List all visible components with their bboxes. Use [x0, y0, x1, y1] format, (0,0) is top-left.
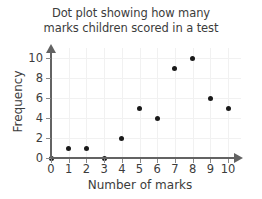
gridline-vertical — [175, 48, 176, 160]
data-point — [155, 116, 160, 121]
gridline-vertical — [157, 48, 158, 160]
dot-plot-figure: Dot plot showing how many marks children… — [0, 0, 262, 199]
y-axis-tick-label: 10 — [13, 53, 43, 65]
data-point — [172, 66, 177, 71]
gridline-vertical — [140, 48, 141, 160]
y-axis-tick-label: 6 — [13, 93, 43, 105]
data-point — [190, 56, 195, 61]
data-point — [119, 136, 124, 141]
y-axis-tick — [46, 138, 51, 139]
gridline-horizontal — [51, 78, 241, 79]
gridline-horizontal — [51, 58, 241, 59]
gridline-vertical — [69, 48, 70, 160]
x-axis-tick-label: 10 — [216, 163, 240, 176]
y-axis-tick — [46, 78, 51, 79]
y-axis-tick-label: 4 — [13, 113, 43, 125]
chart-title-line-1: Dot plot showing how many — [14, 6, 248, 21]
gridline-vertical — [122, 48, 123, 160]
y-axis-arrow-icon — [46, 44, 56, 53]
y-axis-tick — [46, 98, 51, 99]
gridline-vertical — [210, 48, 211, 160]
x-axis-line — [51, 157, 236, 159]
data-point — [84, 146, 89, 151]
y-axis-tick-label: 8 — [13, 73, 43, 85]
gridline-vertical — [193, 48, 194, 160]
y-axis-tick — [46, 118, 51, 119]
gridline-horizontal — [51, 118, 241, 119]
data-point — [226, 106, 231, 111]
gridline-vertical — [104, 48, 105, 160]
gridline-vertical — [228, 48, 229, 160]
chart-title: Dot plot showing how many marks children… — [14, 6, 248, 35]
data-point — [66, 146, 71, 151]
x-axis-arrow-icon — [234, 153, 243, 163]
gridline-vertical — [86, 48, 87, 160]
gridline-horizontal — [51, 138, 241, 139]
y-axis-line — [50, 52, 52, 159]
data-point — [137, 106, 142, 111]
chart-title-line-2: marks children scored in a test — [14, 21, 248, 36]
data-point — [208, 96, 213, 101]
plot-area — [51, 58, 228, 158]
x-axis-title: Number of marks — [40, 178, 240, 192]
y-axis-tick-label: 2 — [13, 133, 43, 145]
y-axis-tick — [46, 58, 51, 59]
